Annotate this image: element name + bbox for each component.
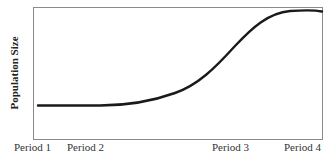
x-tick-period-4: Period 4 (284, 141, 321, 153)
chart-frame (34, 8, 323, 140)
population-chart: Population Size Period 1 Period 2 Period… (0, 0, 335, 166)
x-tick-period-2: Period 2 (67, 141, 104, 153)
x-tick-period-1: Period 1 (14, 141, 51, 153)
y-axis-label: Population Size (4, 18, 24, 128)
x-tick-period-3: Period 3 (212, 141, 249, 153)
y-axis-label-text: Population Size (8, 36, 20, 109)
